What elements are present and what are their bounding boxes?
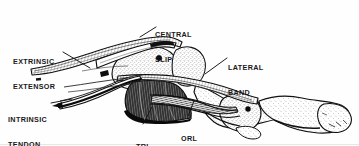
label-central-slip-line-1: CENTRAL xyxy=(155,31,192,39)
dip-condyle-center-dot xyxy=(245,106,250,111)
leader-lateral-band xyxy=(205,58,227,74)
label-extrinsic-extensor-line-1: EXTRINSIC xyxy=(13,58,55,66)
label-lateral-band-line-2: BAND xyxy=(228,89,263,97)
label-trl-line-1: TRL xyxy=(136,143,151,146)
label-orl: ORL xyxy=(181,118,197,146)
label-extrinsic-extensor-line-2: EXTENSOR xyxy=(13,83,55,91)
label-central-slip: CENTRAL SLIP xyxy=(155,14,192,73)
label-lateral-band-line-1: LATERAL xyxy=(228,64,263,72)
convergence-node xyxy=(100,70,109,77)
label-extrinsic-extensor: EXTRINSIC EXTENSOR xyxy=(13,41,55,100)
label-central-slip-line-2: SLIP xyxy=(155,56,192,64)
volar-plate-bulge xyxy=(236,126,261,139)
label-lateral-band: LATERAL BAND xyxy=(228,47,263,106)
label-intrinsic-tendon-line-2: TENDON xyxy=(8,141,47,146)
label-intrinsic-tendon-line-1: INTRINSIC xyxy=(8,116,47,124)
leader-central-slip xyxy=(140,27,156,37)
label-orl-line-1: ORL xyxy=(181,135,197,143)
label-intrinsic-tendon: INTRINSIC TENDON xyxy=(8,99,47,146)
label-trl: TRL xyxy=(136,126,151,146)
